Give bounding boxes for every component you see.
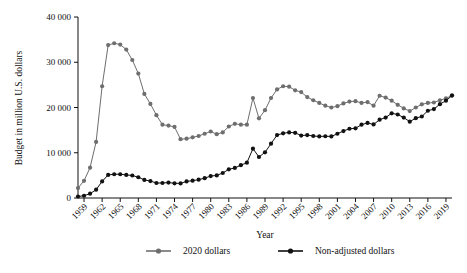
- data-point: [148, 102, 152, 106]
- data-point: [239, 123, 243, 127]
- x-tick-label: 1977: [178, 201, 198, 221]
- data-point: [172, 181, 176, 185]
- data-point: [166, 180, 170, 184]
- data-point: [311, 134, 315, 138]
- data-point: [402, 115, 406, 119]
- data-point: [130, 58, 134, 62]
- data-point: [154, 113, 158, 117]
- data-point: [323, 134, 327, 138]
- y-axis-tick-group: 010 00020 00030 00040 000: [46, 12, 78, 203]
- data-point: [245, 123, 249, 127]
- data-point: [438, 98, 442, 102]
- x-tick-label: 2004: [341, 201, 361, 221]
- data-point: [263, 150, 267, 154]
- data-point: [118, 43, 122, 47]
- x-tick-label: 1962: [88, 201, 108, 221]
- data-point: [124, 47, 128, 51]
- data-point: [76, 194, 80, 198]
- data-point: [112, 172, 116, 176]
- data-point: [88, 166, 92, 170]
- chart-legend: 2020 dollarsNon-adjusted dollars: [146, 246, 395, 256]
- data-point: [221, 130, 225, 134]
- y-tick-label: 0: [67, 193, 72, 203]
- data-point: [160, 181, 164, 185]
- data-point: [353, 99, 357, 103]
- data-point: [215, 173, 219, 177]
- x-tick-label: 2010: [377, 201, 397, 221]
- data-point: [414, 105, 418, 109]
- data-point: [408, 109, 412, 113]
- data-point: [384, 95, 388, 99]
- data-point: [136, 71, 140, 75]
- data-point: [438, 102, 442, 106]
- legend-marker-1: [156, 248, 161, 253]
- data-point: [384, 115, 388, 119]
- data-point: [257, 155, 261, 159]
- x-tick-label: 1965: [106, 201, 126, 221]
- data-point: [209, 174, 213, 178]
- x-tick-label: 1983: [214, 201, 234, 221]
- data-point: [293, 131, 297, 135]
- data-point: [317, 134, 321, 138]
- data-point: [317, 101, 321, 105]
- data-point: [378, 118, 382, 122]
- data-point: [172, 125, 176, 129]
- data-point: [269, 142, 273, 146]
- data-point: [426, 109, 430, 113]
- data-point: [251, 96, 255, 100]
- data-point: [106, 43, 110, 47]
- data-point: [191, 179, 195, 183]
- data-point: [178, 181, 182, 185]
- data-point: [94, 188, 98, 192]
- data-point: [347, 100, 351, 104]
- data-point: [353, 126, 357, 130]
- data-point: [191, 135, 195, 139]
- data-point: [227, 167, 231, 171]
- data-point: [420, 102, 424, 106]
- data-point: [233, 122, 237, 126]
- data-point: [124, 173, 128, 177]
- data-point: [287, 130, 291, 134]
- data-point: [269, 96, 273, 100]
- data-series-group: [76, 41, 454, 198]
- data-point: [341, 129, 345, 133]
- data-point: [184, 137, 188, 141]
- data-point: [396, 103, 400, 107]
- data-point: [197, 134, 201, 138]
- y-tick-label: 40 000: [46, 12, 71, 22]
- data-point: [227, 124, 231, 128]
- x-tick-label: 1986: [233, 201, 253, 221]
- data-point: [184, 179, 188, 183]
- data-point: [347, 127, 351, 131]
- data-point: [359, 123, 363, 127]
- data-point: [215, 132, 219, 136]
- x-axis-tick-group: 1959196219651968197119741977198019831986…: [70, 198, 452, 221]
- x-tick-label: 2013: [395, 201, 415, 221]
- data-point: [450, 94, 454, 98]
- x-tick-label: 2001: [323, 201, 343, 221]
- data-point: [275, 133, 279, 137]
- data-point: [365, 121, 369, 125]
- y-axis-title: Budget in million U.S. dollars: [14, 50, 24, 165]
- data-point: [390, 99, 394, 103]
- data-point: [341, 101, 345, 105]
- data-point: [130, 173, 134, 177]
- data-point: [432, 100, 436, 104]
- data-point: [281, 84, 285, 88]
- data-point: [209, 129, 213, 133]
- data-point: [142, 92, 146, 96]
- data-point: [335, 104, 339, 108]
- data-point: [88, 192, 92, 196]
- data-point: [378, 94, 382, 98]
- data-point: [335, 132, 339, 136]
- data-point: [203, 132, 207, 136]
- data-point: [371, 104, 375, 108]
- legend-marker-2: [288, 248, 293, 253]
- y-tick-label: 30 000: [46, 57, 71, 67]
- data-point: [287, 85, 291, 89]
- data-point: [221, 171, 225, 175]
- data-point: [329, 105, 333, 109]
- y-tick-label: 20 000: [46, 103, 71, 113]
- x-tick-label: 2007: [359, 201, 379, 221]
- data-point: [365, 100, 369, 104]
